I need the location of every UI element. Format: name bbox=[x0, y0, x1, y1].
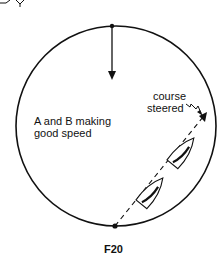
main-label: A and B making good speed bbox=[34, 115, 111, 139]
main-label-line1: A and B making bbox=[34, 115, 111, 127]
course-label: course steered bbox=[147, 90, 186, 114]
figure-label: F20 bbox=[104, 243, 123, 255]
boat-a-icon bbox=[167, 133, 200, 169]
main-label-line2: good speed bbox=[34, 127, 111, 139]
corner-fragment-icon bbox=[0, 0, 24, 7]
course-label-line1: course bbox=[147, 90, 186, 102]
boat-b-icon bbox=[136, 173, 169, 209]
down-arrow-icon bbox=[108, 26, 116, 80]
course-dashed-line bbox=[115, 117, 203, 226]
course-label-line2: steered bbox=[147, 102, 186, 114]
